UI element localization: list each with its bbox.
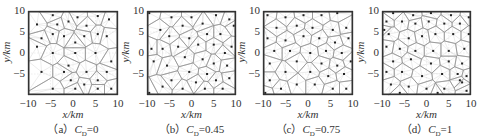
- caption-value: =1: [441, 123, 453, 135]
- station-site: [401, 71, 403, 73]
- station-site: [443, 23, 445, 25]
- station-site: [421, 35, 423, 37]
- voronoi-cell: [441, 41, 457, 56]
- station-site: [408, 37, 410, 39]
- station-site: [466, 75, 468, 77]
- station-site: [428, 21, 430, 23]
- station-site: [461, 63, 463, 65]
- station-site: [383, 29, 385, 31]
- caption-variable: C: [428, 123, 435, 135]
- station-site: [461, 81, 463, 83]
- station-site: [385, 21, 387, 23]
- station-site: [443, 88, 445, 90]
- voronoi-cell: [460, 11, 471, 26]
- voronoi-cell: [421, 16, 437, 30]
- station-site: [410, 58, 412, 60]
- station-site: [468, 33, 470, 35]
- station-site: [457, 73, 459, 75]
- caption-label: （d）: [401, 123, 429, 135]
- station-site: [414, 23, 416, 25]
- station-site: [463, 48, 465, 50]
- y-axis-label: y/km: [354, 37, 366, 67]
- x-tick-label: 10: [461, 98, 481, 109]
- x-axis-label: x/km: [407, 108, 447, 120]
- voronoi-cell: [389, 84, 409, 95]
- station-site: [434, 33, 436, 35]
- station-site: [390, 84, 392, 86]
- station-site: [421, 75, 423, 77]
- station-site: [408, 86, 410, 88]
- station-site: [441, 73, 443, 75]
- y-tick-label: −5: [361, 68, 379, 79]
- station-site: [385, 71, 387, 73]
- station-site: [468, 16, 470, 18]
- station-site: [414, 50, 416, 52]
- station-site: [459, 79, 461, 81]
- station-site: [426, 88, 428, 90]
- station-site: [450, 14, 452, 16]
- station-site: [452, 33, 454, 35]
- station-site: [385, 46, 387, 48]
- voronoi-cell: [456, 40, 471, 57]
- plot-area: [382, 11, 471, 95]
- station-site: [448, 50, 450, 52]
- station-site: [412, 14, 414, 16]
- station-site: [399, 48, 401, 50]
- panel-d: 1050−5y/km−10−50510x/km（d）CD=1: [0, 0, 483, 139]
- station-site: [459, 23, 461, 25]
- station-site: [430, 63, 432, 65]
- panel-caption: （d）CD=1: [377, 120, 477, 138]
- x-tick-label: −10: [372, 98, 392, 109]
- voronoi-map: [382, 11, 471, 95]
- y-tick-label: 5: [361, 26, 379, 37]
- station-site: [466, 90, 468, 92]
- y-tick-label: 10: [361, 5, 379, 16]
- station-site: [432, 50, 434, 52]
- voronoi-cell: [439, 56, 456, 70]
- voronoi-cell: [417, 80, 436, 95]
- station-site: [388, 33, 390, 35]
- station-site: [392, 60, 394, 62]
- station-site: [448, 60, 450, 62]
- station-site: [401, 21, 403, 23]
